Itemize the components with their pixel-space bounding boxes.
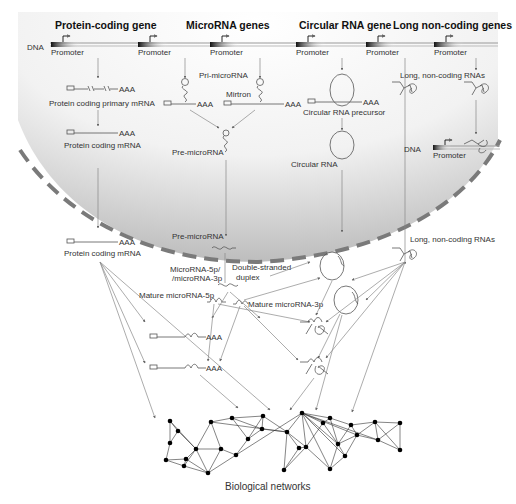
network-node [349, 423, 354, 428]
network-edge [211, 418, 232, 422]
header-lncrna: Long non-coding genes [393, 19, 512, 31]
dna-label: DNA [27, 43, 45, 52]
network-node [355, 433, 360, 438]
svg-text:Promoter: Promoter [296, 48, 329, 57]
network-edge [236, 413, 302, 455]
svg-text:AAA: AAA [119, 129, 136, 138]
svg-text:DNA: DNA [404, 145, 422, 154]
svg-text:Promoter: Promoter [366, 48, 399, 57]
network-node [376, 438, 381, 443]
network-edge [306, 447, 330, 469]
network-edge [330, 418, 338, 444]
network-node [194, 447, 199, 452]
pre-microrna-cyto-label: Pre-microRNA [172, 232, 224, 241]
duplex-label-1: MicroRNA-5p/ [170, 265, 221, 274]
network-edge [323, 423, 338, 444]
network-node [184, 457, 189, 462]
network-node [260, 427, 265, 432]
svg-text:Promoter: Promoter [138, 48, 171, 57]
network-node [234, 453, 239, 458]
protein-mrna-cyto-label: Protein coding mRNA [64, 249, 142, 258]
network-edge [211, 422, 287, 432]
network-edge [232, 416, 263, 418]
network-edge [211, 422, 221, 449]
network-node [168, 441, 173, 446]
svg-text:AAA: AAA [119, 238, 136, 247]
rna-complexes [290, 318, 328, 411]
circ-precursor-label: Circular RNA precursor [303, 108, 386, 117]
pre-microrna-label: Pre-microRNA [172, 148, 224, 157]
biological-network: Biological networks [164, 411, 403, 492]
network-node [206, 471, 211, 476]
network-node [230, 416, 235, 421]
network-edge [287, 413, 302, 432]
svg-text:AAA: AAA [363, 98, 380, 107]
network-edge [375, 422, 400, 423]
network-node [343, 454, 348, 459]
network-edge [284, 447, 306, 470]
pri-microrna-label: Pri-microRNA [199, 71, 249, 80]
network-edge [184, 466, 208, 473]
svg-text:Promoter: Promoter [434, 48, 467, 57]
protein-primary-label: Protein coding primary mRNA [49, 99, 155, 108]
network-edge [178, 431, 196, 449]
mature-3p-label: Mature microRNA-3p [248, 300, 324, 309]
nucleus-region [18, 12, 500, 262]
network-edge [378, 440, 400, 450]
network-node [246, 437, 251, 442]
network-edge [166, 460, 184, 466]
network-edge [357, 435, 378, 440]
svg-text:AAA: AAA [285, 100, 302, 109]
circular-rna-cytoplasm [316, 252, 358, 410]
network-node [282, 468, 287, 473]
network-node [321, 421, 326, 426]
network-edge [302, 413, 338, 444]
network-node [328, 416, 333, 421]
header-microrna: MicroRNA genes [186, 19, 270, 31]
header-protein-coding: Protein-coding gene [55, 19, 157, 31]
protein-mrna-label: Protein coding mRNA [64, 141, 142, 150]
svg-text:AAA: AAA [206, 364, 223, 373]
network-edge [166, 443, 170, 460]
network-node [176, 429, 181, 434]
network-node [398, 448, 403, 453]
network-node [373, 420, 378, 425]
network-node [398, 421, 403, 426]
network-edge [221, 449, 236, 455]
network-edge [166, 459, 186, 460]
lnc-rnas-label: Long, non-coding RNAs [400, 71, 485, 80]
network-label: Biological networks [225, 481, 311, 492]
header-circular: Circular RNA gene [299, 19, 392, 31]
duplex-label-2: /microRNA-3p [172, 274, 223, 283]
network-node [182, 464, 187, 469]
svg-text:AAA: AAA [206, 333, 223, 342]
network-node [297, 446, 302, 451]
network-edge [284, 432, 287, 470]
network-edge [248, 429, 262, 439]
network-edge [302, 413, 306, 447]
lncrna-cytoplasm: Long, non-coding RNAs [326, 235, 495, 412]
diagram-canvas: Protein-coding gene MicroRNA genes Circu… [0, 0, 516, 504]
network-node [285, 430, 290, 435]
ds-label-2: duplex [236, 273, 260, 282]
network-node [336, 442, 341, 447]
svg-text:Promoter: Promoter [210, 48, 243, 57]
network-node [304, 445, 309, 450]
svg-text:AAA: AAA [119, 85, 136, 94]
svg-text:AAA: AAA [197, 100, 214, 109]
network-node [168, 419, 173, 424]
network-node [209, 420, 214, 425]
circ-rna-label: Circular RNA [291, 160, 338, 169]
network-node [219, 447, 224, 452]
network-edge [196, 422, 211, 449]
network-node [300, 411, 305, 416]
svg-text:Promoter: Promoter [51, 48, 84, 57]
network-edge [284, 448, 299, 470]
svg-text:Promoter: Promoter [433, 151, 466, 160]
network-node [164, 458, 169, 463]
mirtron-label: Mirtron [226, 90, 251, 99]
network-node [261, 414, 266, 419]
lnc-rnas-cyto-label: Long, non-coding RNAs [410, 235, 495, 244]
network-edge [208, 449, 221, 473]
mature-5p-label: Mature microRNA-5p [139, 291, 215, 300]
